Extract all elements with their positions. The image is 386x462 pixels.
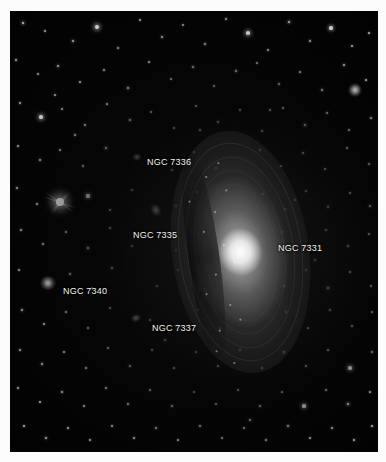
hii-knot	[188, 201, 190, 203]
hii-knot	[218, 330, 220, 332]
hii-knot	[202, 231, 204, 233]
image-frame: NGC 7336NGC 7335NGC 7331NGC 7340NGC 7337	[10, 11, 378, 452]
hii-knot	[214, 211, 216, 213]
hii-knot	[205, 176, 207, 178]
label-ngc-7335: NGC 7335	[133, 231, 177, 240]
hii-knot	[214, 274, 216, 276]
label-ngc-7331: NGC 7331	[278, 244, 322, 253]
hii-knot	[233, 261, 235, 263]
hii-knot	[205, 293, 207, 295]
hii-knot	[239, 319, 241, 321]
label-ngc-7337: NGC 7337	[152, 324, 196, 333]
hii-knot	[233, 362, 235, 364]
label-ngc-7336: NGC 7336	[147, 158, 191, 167]
label-ngc-7340: NGC 7340	[63, 287, 107, 296]
hii-knot	[229, 304, 231, 306]
hii-knot	[225, 189, 227, 191]
hii-knot	[215, 350, 217, 352]
astronomy-image-page: NGC 7336NGC 7335NGC 7331NGC 7340NGC 7337	[0, 0, 386, 462]
hii-knot	[217, 162, 219, 164]
hii-knot	[222, 244, 224, 246]
